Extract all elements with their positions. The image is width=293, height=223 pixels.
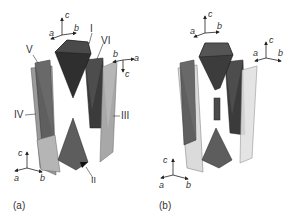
panel-a-structure [31,40,117,175]
axis-label-b-bottom-a: a [159,181,164,190]
axis-label-a-top-c: c [65,11,70,20]
panel-b-structure [178,43,257,172]
axis-label-a-bottom-c: c [18,149,23,158]
axis-label-a-bottom-b: b [40,174,45,183]
axis-label-a-top-a: a [49,29,54,38]
axis-label-b-right-b: b [278,49,283,58]
label-polyhedron-ii: II [91,176,96,185]
panel-label-b: (b) [159,200,171,211]
crystal-structure-figure [0,0,293,223]
slab-left-front [37,135,60,172]
axis-label-a-right-c: c [125,70,130,79]
axis-label-b-top-b: b [217,22,222,31]
label-polyhedron-i: I [90,24,93,34]
axis-label-b-right-a: a [253,49,258,58]
label-polyhedron-iii: III [121,111,129,121]
label-polyhedron-iv: IV [14,110,23,120]
label-polyhedron-vi: VI [101,36,110,46]
axis-label-a-right-b: b [113,50,118,59]
axes-a-top [51,18,76,39]
axes-b-top [194,16,219,37]
axis-label-b-right-c: c [269,36,274,45]
label-polyhedron-v: V [26,45,33,55]
polyhedron-b-middle [214,98,220,120]
polyhedron-b-bottom [202,128,232,168]
axis-label-a-top-b: b [74,24,79,33]
slab-b-right-pale [240,66,257,163]
axis-label-b-bottom-c: c [163,156,168,165]
axis-label-b-top-c: c [208,10,213,19]
axis-label-b-top-a: a [190,27,195,36]
axis-label-a-right-a: a [134,54,139,63]
axis-label-a-bottom-a: a [14,174,19,183]
panel-label-a: (a) [13,200,25,211]
axis-label-b-bottom-b: b [186,181,191,190]
